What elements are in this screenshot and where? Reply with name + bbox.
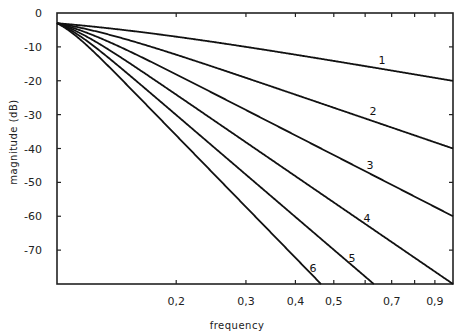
curve-label-2: 2 [370,105,377,118]
curve-label-6: 6 [310,262,317,275]
curve-3 [57,23,453,216]
x-axis: 0,20,30,40,50,70,9 [167,13,443,308]
curve-4 [57,23,453,284]
curve-labels: 123456 [310,54,386,275]
curve-label-4: 4 [364,212,371,225]
y-tick-label: -40 [24,143,42,156]
x-tick-label: 0,5 [325,295,343,308]
curve-1 [57,23,453,81]
x-axis-label: frequency [210,320,265,331]
butterworth-magnitude-chart: 0-10-20-30-40-50-60-70 0,20,30,40,50,70,… [0,0,464,336]
curve-label-3: 3 [367,159,374,172]
y-axis: 0-10-20-30-40-50-60-70 [24,7,453,257]
y-tick-label: -60 [24,210,42,223]
y-tick-label: -50 [24,176,42,189]
x-tick-label: 0,9 [426,295,444,308]
y-tick-label: 0 [35,7,42,20]
x-tick-label: 0,4 [287,295,305,308]
curve-label-1: 1 [379,54,386,67]
curve-label-5: 5 [349,252,356,265]
curves [57,23,453,284]
curve-2 [57,23,453,148]
curve-6 [57,23,321,284]
y-axis-label: magnitude (dB) [8,99,19,184]
x-tick-label: 0,2 [167,295,185,308]
y-tick-label: -30 [24,109,42,122]
x-tick-label: 0,7 [383,295,401,308]
x-tick-label: 0,3 [237,295,255,308]
y-tick-label: -70 [24,244,42,257]
y-tick-label: -10 [24,41,42,54]
y-tick-label: -20 [24,75,42,88]
